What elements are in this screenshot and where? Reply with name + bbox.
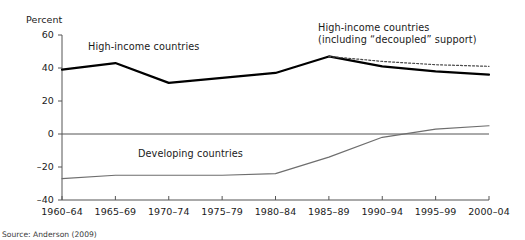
series-label-high-income-decoupled: High-income countries (including “decoup… — [318, 22, 477, 45]
y-tick-label: 20 — [24, 95, 54, 106]
y-tick-label: 60 — [24, 29, 54, 40]
y-tick-label: 40 — [24, 62, 54, 73]
y-tick-label: –20 — [24, 161, 54, 172]
x-tick-label: 1975–79 — [201, 206, 243, 217]
y-tick-label: –40 — [24, 194, 54, 205]
x-tick-label: 1965–69 — [95, 206, 137, 217]
x-tick-label: 1960–64 — [41, 206, 83, 217]
series-layer — [62, 56, 489, 178]
x-tick-label: 1995–99 — [415, 206, 457, 217]
x-tick-label: 1990–94 — [361, 206, 403, 217]
series-label-high-income: High-income countries — [88, 41, 199, 53]
y-tick-label: 0 — [24, 128, 54, 139]
y-axis-unit-caption: Percent — [26, 14, 62, 25]
chart-figure: Percent –40–200204060 1960–641965–691970… — [0, 0, 525, 240]
series-label-decoupled-line-2: (including “decoupled” support) — [318, 34, 477, 46]
series-label-developing: Developing countries — [138, 148, 243, 160]
series-label-decoupled-line-1: High-income countries — [318, 22, 477, 34]
x-tick-label: 1985–89 — [308, 206, 350, 217]
source-note: Source: Anderson (2009) — [2, 230, 97, 239]
series-path-0 — [62, 56, 489, 82]
x-tick-label: 1980–84 — [255, 206, 297, 217]
x-tick-label: 2000–04 — [468, 206, 510, 217]
x-tick-label: 1970–74 — [148, 206, 190, 217]
